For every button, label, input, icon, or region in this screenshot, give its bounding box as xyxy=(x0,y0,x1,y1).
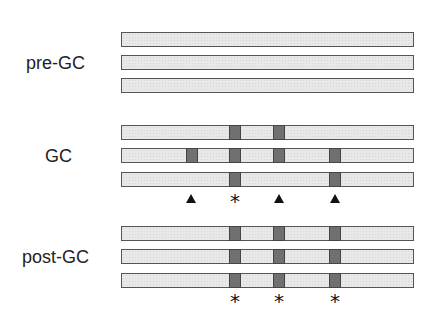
asterisk-marker-icon: * xyxy=(327,293,343,309)
sequence-bar xyxy=(121,148,414,163)
asterisk-marker-icon: * xyxy=(271,293,287,309)
sequence-bar xyxy=(121,32,414,47)
variant-segment xyxy=(329,249,341,264)
sequence-bar xyxy=(121,78,414,93)
variant-segment xyxy=(273,148,285,163)
variant-segment xyxy=(229,125,241,140)
variant-segment xyxy=(229,148,241,163)
variant-segment xyxy=(273,226,285,241)
variant-segment xyxy=(329,226,341,241)
variant-segment xyxy=(229,172,241,187)
group-label: GC xyxy=(45,146,72,166)
triangle-marker-icon xyxy=(183,194,199,203)
variant-segment xyxy=(273,273,285,288)
group-label: post-GC xyxy=(22,247,89,267)
variant-segment xyxy=(229,273,241,288)
sequence-bar xyxy=(121,273,414,288)
sequence-bar xyxy=(121,172,414,187)
variant-segment xyxy=(273,125,285,140)
sequence-bar xyxy=(121,249,414,264)
variant-segment xyxy=(229,249,241,264)
variant-segment xyxy=(329,172,341,187)
triangle-marker-icon xyxy=(327,194,343,203)
variant-segment xyxy=(186,148,198,163)
sequence-bar xyxy=(121,226,414,241)
sequence-bar xyxy=(121,55,414,70)
sequence-bar xyxy=(121,125,414,140)
asterisk-marker-icon: * xyxy=(227,293,243,309)
variant-segment xyxy=(229,226,241,241)
triangle-marker-icon xyxy=(271,194,287,203)
variant-segment xyxy=(329,148,341,163)
variant-segment xyxy=(329,273,341,288)
variant-segment xyxy=(273,249,285,264)
asterisk-marker-icon: * xyxy=(227,193,243,209)
group-label: pre-GC xyxy=(26,53,85,73)
